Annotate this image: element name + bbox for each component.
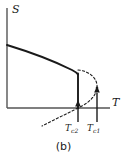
solid-entropy-curve xyxy=(7,45,78,75)
x-tick-label-tc2: Tc2 xyxy=(65,124,78,133)
y-axis-label: S xyxy=(12,4,20,15)
nose-point-marker xyxy=(96,87,99,90)
tick-subscript-tc2: c2 xyxy=(71,127,78,134)
axis-crossing-point-marker xyxy=(77,107,80,110)
x-axis-label: T xyxy=(112,97,119,108)
tick-arrowhead-Tc2 xyxy=(75,100,81,107)
figure-container: S T Tc2 Tc1 (b) xyxy=(0,0,127,162)
tick-subscript-tc1: c1 xyxy=(93,127,100,134)
dashed-metastable-curve xyxy=(78,70,97,108)
figure-caption: (b) xyxy=(0,141,127,152)
entropy-temperature-plot xyxy=(0,0,127,162)
x-tick-label-tc1: Tc1 xyxy=(87,124,100,133)
